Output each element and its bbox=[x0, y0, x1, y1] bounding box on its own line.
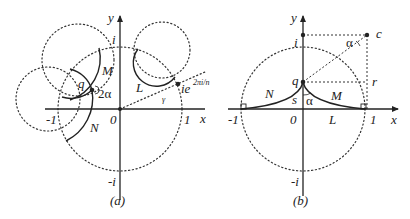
tick-neg-one-a: -1 bbox=[46, 112, 57, 127]
panel-b: y x i -i 1 -1 0 M N L q c r s α α (b) bbox=[228, 10, 398, 208]
label-q-a: q bbox=[78, 76, 85, 91]
tick-neg-i-b: -i bbox=[291, 174, 299, 189]
label-M-b: M bbox=[330, 88, 343, 103]
tick-neg-i-a: -i bbox=[108, 174, 116, 189]
x-label-b: x bbox=[390, 112, 397, 127]
tick-one-a: 1 bbox=[184, 112, 191, 127]
label-ie: ie bbox=[181, 81, 191, 96]
x-label-a: x bbox=[199, 111, 206, 126]
label-s: s bbox=[292, 92, 297, 107]
label-L-b: L bbox=[328, 112, 336, 127]
panel-a: y x i -i 1 -1 0 M N L q 2α ie 2πi/n γ (a… bbox=[16, 10, 209, 208]
circle-right bbox=[134, 22, 190, 78]
tick-zero-b: 0 bbox=[290, 112, 297, 127]
label-L-a: L bbox=[135, 80, 143, 95]
label-q-b: q bbox=[292, 73, 299, 88]
y-label-a: y bbox=[106, 10, 114, 25]
tick-i-b: i bbox=[294, 35, 298, 50]
caption-a: (a) bbox=[110, 193, 125, 208]
arc-M-a bbox=[70, 48, 100, 100]
tick-one-b: 1 bbox=[370, 112, 377, 127]
point-q-a bbox=[90, 88, 95, 93]
label-c: c bbox=[376, 26, 382, 41]
label-2alpha: 2α bbox=[98, 86, 112, 101]
point-c bbox=[365, 33, 369, 37]
label-N-b: N bbox=[264, 86, 275, 101]
caption-b: (b) bbox=[293, 193, 308, 208]
point-i-b bbox=[301, 33, 305, 37]
tick-zero-a: 0 bbox=[110, 112, 117, 127]
y-label-b: y bbox=[289, 10, 297, 25]
label-alpha-top: α bbox=[346, 35, 353, 50]
point-q-b bbox=[301, 80, 306, 85]
point-ie bbox=[176, 82, 181, 87]
tick-neg-one-b: -1 bbox=[228, 112, 239, 127]
label-M-a: M bbox=[101, 63, 114, 78]
label-gamma: γ bbox=[162, 95, 166, 104]
tick-i-a: i bbox=[112, 32, 116, 47]
label-alpha-bottom: α bbox=[306, 93, 313, 108]
label-r: r bbox=[372, 74, 378, 89]
label-N-a: N bbox=[89, 120, 100, 135]
figure-canvas: y x i -i 1 -1 0 M N L q 2α ie 2πi/n γ (a… bbox=[0, 0, 410, 219]
label-ie-exp: 2πi/n bbox=[193, 78, 209, 87]
origin-a bbox=[118, 107, 122, 111]
